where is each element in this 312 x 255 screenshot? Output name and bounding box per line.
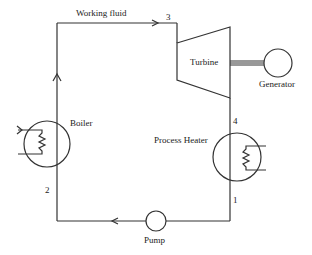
generator: Generator	[259, 49, 295, 89]
turbine-label: Turbine	[190, 57, 218, 67]
cogeneration-diagram: Turbine Generator Boiler Process Heater …	[0, 0, 312, 255]
state-point-4: 4	[233, 116, 238, 126]
process-heater: Process Heater	[154, 133, 266, 181]
shaft	[230, 61, 264, 65]
flow-arrows	[53, 20, 158, 224]
process-heater-label: Process Heater	[154, 135, 208, 145]
pump-circle	[146, 211, 166, 231]
process-heater-coil-icon	[243, 146, 266, 170]
generator-label: Generator	[259, 79, 295, 89]
state-point-1: 1	[233, 195, 238, 205]
boiler-label: Boiler	[70, 118, 93, 128]
pump: Pump	[144, 211, 166, 245]
working-fluid-label: Working fluid	[76, 8, 127, 18]
boiler-coil-icon	[18, 130, 45, 154]
state-point-2: 2	[45, 185, 50, 195]
process-heater-circle	[213, 133, 261, 181]
boiler: Boiler	[17, 118, 93, 167]
boiler-circle	[24, 121, 70, 167]
pump-label: Pump	[144, 235, 166, 245]
state-point-3: 3	[166, 12, 171, 22]
generator-circle	[264, 49, 292, 77]
turbine: Turbine	[177, 27, 230, 98]
